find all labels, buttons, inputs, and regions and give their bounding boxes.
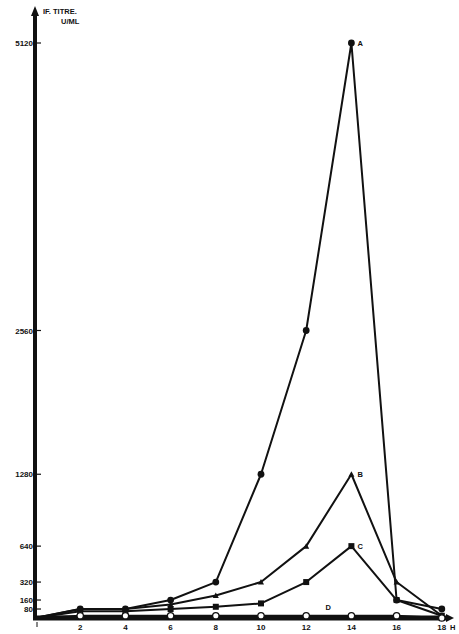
open-circle-marker-icon <box>393 613 399 619</box>
x-tick-label: 16 <box>392 623 401 632</box>
y-tick-label: 1280 <box>15 470 33 479</box>
x-tick-label: 4 <box>123 623 128 632</box>
y-tick-label: 160 <box>20 596 34 605</box>
series-group <box>35 40 445 622</box>
y-tick-label: 320 <box>20 578 34 587</box>
circle-marker-icon <box>438 606 445 613</box>
x-tick-label: 8 <box>214 623 219 632</box>
series-label-d: D <box>325 603 331 612</box>
y-tick-label: 2560 <box>15 327 33 336</box>
open-circle-marker-icon <box>303 613 309 619</box>
x-tick-label: 12 <box>302 623 311 632</box>
x-axis-arrow-icon <box>446 614 454 622</box>
open-circle-marker-icon <box>439 615 445 621</box>
y-axis-title: IF. TITRE. <box>43 7 77 16</box>
y-tick-label: 640 <box>20 542 34 551</box>
y-tick-label: 80 <box>24 605 33 614</box>
titre-line-chart: 8016032064012802560512024681012141618IF.… <box>0 0 459 634</box>
circle-marker-icon <box>258 471 265 478</box>
square-marker-icon <box>258 600 264 606</box>
square-marker-icon <box>303 579 309 585</box>
square-marker-icon <box>213 604 219 610</box>
circle-marker-icon <box>303 327 310 334</box>
x-tick-label: 6 <box>168 623 173 632</box>
series-c <box>35 543 445 619</box>
series-line-b <box>35 474 442 618</box>
circle-marker-icon <box>348 40 355 47</box>
open-circle-marker-icon <box>77 613 83 619</box>
series-b <box>35 471 445 618</box>
x-tick-label: 10 <box>257 623 266 632</box>
open-circle-marker-icon <box>348 613 354 619</box>
y-tick-label: 5120 <box>15 39 33 48</box>
series-line-c <box>35 546 442 618</box>
x-tick-label: 18 <box>437 623 446 632</box>
series-label-b: B <box>357 470 363 479</box>
series-a <box>35 40 445 618</box>
series-line-a <box>35 43 442 618</box>
square-marker-icon <box>168 606 174 612</box>
open-circle-marker-icon <box>258 613 264 619</box>
series-label-c: C <box>357 542 363 551</box>
series-label-a: A <box>357 39 363 48</box>
x-tick-label: 14 <box>347 623 356 632</box>
open-circle-marker-icon <box>167 613 173 619</box>
triangle-marker-icon <box>348 471 354 477</box>
x-axis-title: H <box>450 623 455 632</box>
open-circle-marker-icon <box>213 613 219 619</box>
open-circle-marker-icon <box>122 613 128 619</box>
y-axis-unit: U/ML <box>61 17 80 26</box>
square-marker-icon <box>394 597 400 603</box>
circle-marker-icon <box>212 579 219 586</box>
x-tick-label: 2 <box>78 623 83 632</box>
y-axis-arrow-icon <box>31 6 39 16</box>
square-marker-icon <box>348 543 354 549</box>
